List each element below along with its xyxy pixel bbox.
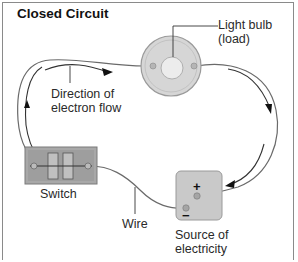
minus-terminal-label: − (182, 209, 190, 223)
source-label-line1: Source of (175, 228, 229, 242)
direction-label: Direction of electron flow (51, 87, 121, 115)
direction-label-line1: Direction of (51, 87, 121, 101)
light-bulb-icon (141, 36, 201, 96)
wire-label: Wire (122, 217, 148, 231)
switch-label: Switch (40, 187, 77, 201)
light-bulb-label-line1: Light bulb (218, 18, 272, 32)
light-bulb-label-line2: (load) (218, 32, 272, 46)
light-bulb-label: Light bulb (load) (218, 18, 272, 46)
switch-icon (25, 147, 97, 184)
direction-label-line2: electron flow (51, 101, 121, 115)
source-label-line2: electricity (175, 242, 229, 256)
plus-terminal-label: + (193, 180, 201, 194)
diagram-title: Closed Circuit (17, 6, 109, 21)
source-label: Source of electricity (175, 228, 229, 256)
